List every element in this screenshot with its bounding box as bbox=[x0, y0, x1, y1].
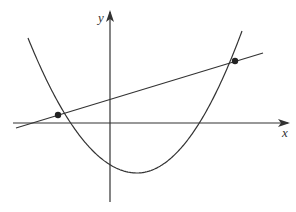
parabola-curve bbox=[28, 31, 242, 173]
intersection-point bbox=[55, 112, 61, 118]
straight-line bbox=[16, 53, 263, 128]
y-axis-label: y bbox=[96, 10, 104, 25]
x-axis-label: x bbox=[281, 125, 288, 140]
intersection-point bbox=[232, 58, 238, 64]
parabola-line-diagram: x y bbox=[0, 0, 296, 212]
